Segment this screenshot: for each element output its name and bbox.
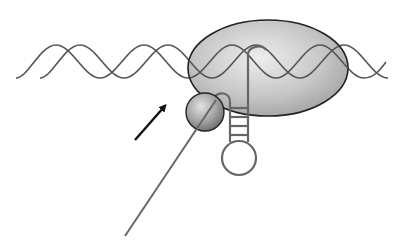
direction-arrow: [135, 107, 164, 140]
rna-hairpin-loop: [222, 141, 256, 175]
termination-diagram: [0, 0, 399, 250]
rna-strand: [125, 100, 216, 236]
rho-factor: [186, 93, 224, 131]
